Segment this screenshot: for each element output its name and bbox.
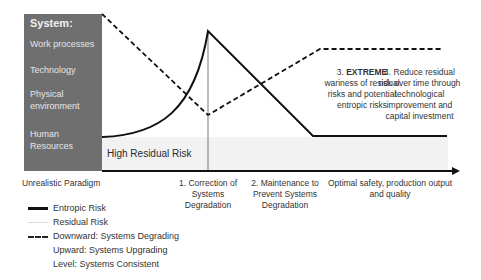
high-residual-risk-label: High Residual Risk: [107, 148, 191, 159]
legend-label: Residual Risk: [53, 216, 108, 229]
dashed-line-icon: [28, 236, 48, 238]
annotation-4: 4. Reduce residual risk over time throug…: [377, 67, 462, 122]
legend-label: Downward: Systems Degrading: [53, 230, 179, 243]
axis-label-end: Optimal safety, production output and qu…: [325, 178, 455, 200]
light-line-icon: [28, 222, 48, 223]
axis-label-start: Unrealistic Paradigm: [22, 178, 100, 189]
axis-label-stage2: 2. Maintenance to Prevent Systems Degrad…: [245, 178, 325, 211]
legend-label: Entropic Risk: [53, 202, 106, 215]
legend-label: Upward: Systems Upgrading: [53, 244, 168, 257]
axis-label-stage1: 1. Correction of Systems Degradation: [170, 178, 246, 211]
solid-line-icon: [28, 207, 48, 210]
axis-arrow-icon: [452, 167, 460, 175]
annotation-3-number: 3.: [337, 67, 344, 77]
legend-label: Level: Systems Consistent: [53, 258, 159, 271]
